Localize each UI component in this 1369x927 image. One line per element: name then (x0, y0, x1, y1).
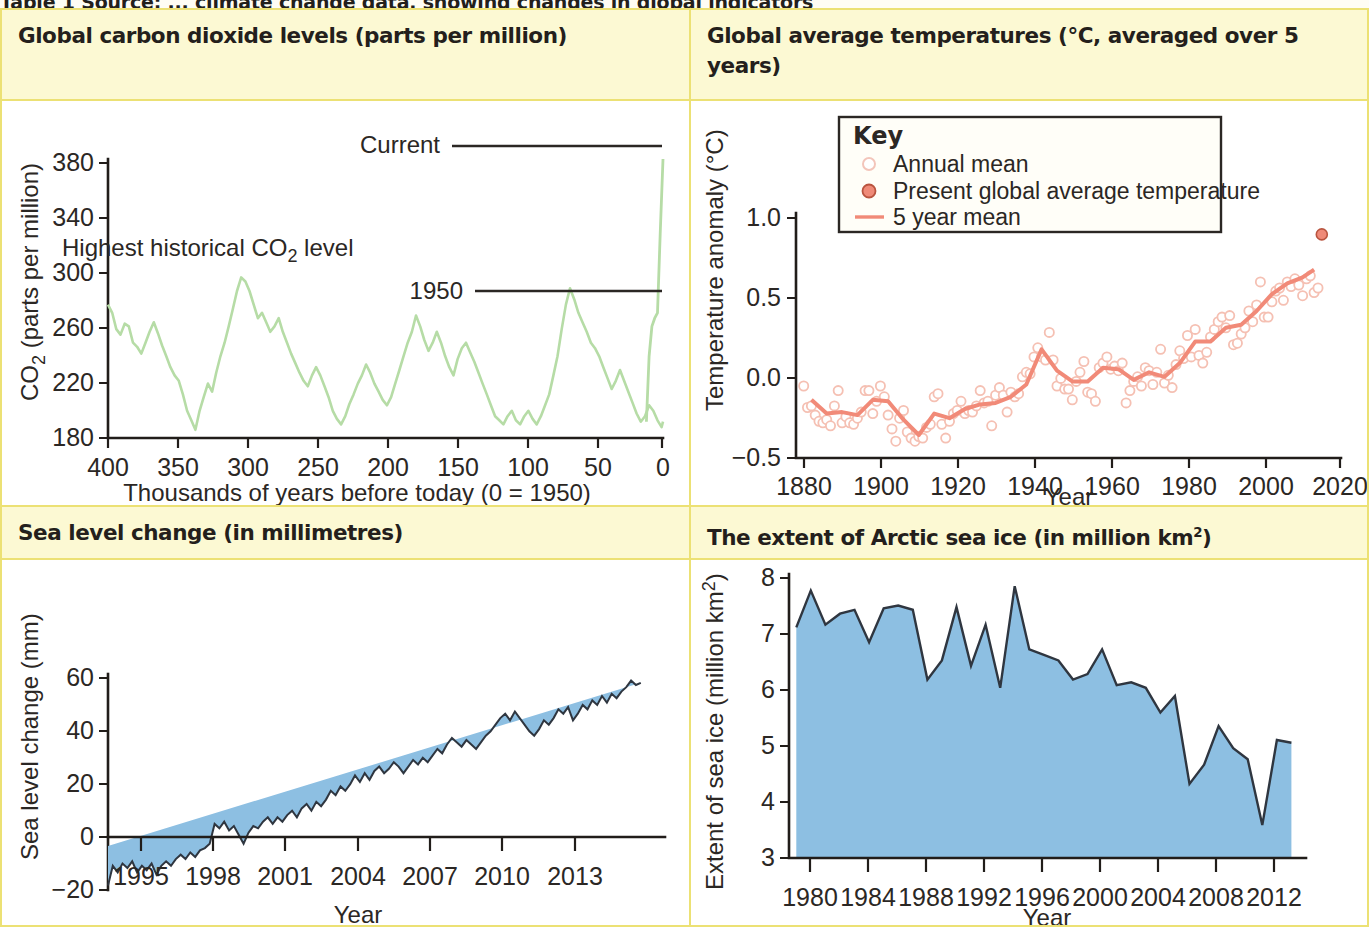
annual-mean-point (876, 381, 885, 390)
legend-label-present: Present global average temperature (893, 178, 1260, 204)
sea-level-x-axis-label: Year (334, 901, 383, 927)
annual-mean-point (1075, 368, 1084, 377)
sea-ice-x-axis-label: Year (1023, 904, 1072, 927)
x-tick-label: 1900 (853, 472, 909, 500)
y-tick-label: 380 (52, 148, 94, 176)
temperature-axes (796, 213, 1341, 458)
annual-mean-point (933, 389, 942, 398)
y-tick-label: 340 (52, 203, 94, 231)
y-tick-label: 220 (52, 368, 94, 396)
panel-title-temperature: Global average temperatures (°C, average… (707, 21, 1351, 81)
annual-mean-point (799, 381, 808, 390)
x-tick-label: 2012 (1246, 883, 1302, 911)
annual-mean-point (1079, 357, 1088, 366)
x-tick-label: 1980 (1161, 472, 1217, 500)
x-tick-label: 2013 (547, 862, 603, 890)
annual-mean-point (864, 386, 873, 395)
y-tick-label: 4 (761, 787, 775, 815)
annual-mean-point (1233, 339, 1242, 348)
x-tick-label: 350 (157, 453, 199, 481)
chart-cell-sea-level: Sea level change (mm) 60 40 20 0 −20 (0, 560, 691, 927)
annual-mean-point (868, 409, 877, 418)
x-tick-label: 2008 (1188, 883, 1244, 911)
annual-mean-point (834, 386, 843, 395)
y-tick-label: 6 (761, 675, 775, 703)
annual-mean-point (891, 437, 900, 446)
temperature-x-axis-label: Year (1045, 483, 1094, 505)
annual-mean-point (887, 424, 896, 433)
x-tick-label: 1980 (782, 883, 838, 911)
y-tick-label: 180 (52, 423, 94, 451)
x-tick-label: 1995 (113, 862, 169, 890)
sea-level-y-axis-label: Sea level change (mm) (16, 613, 43, 860)
annual-mean-point (1202, 348, 1211, 357)
y-tick-label: 3 (761, 843, 775, 871)
climate-indicators-sheet: Table 1 Source: ... climate change data,… (0, 0, 1369, 927)
header-cell-sea-ice: The extent of Arctic sea ice (in million… (691, 505, 1369, 560)
y-tick-label: 0.0 (746, 363, 781, 391)
co2-axes (108, 159, 663, 438)
annual-mean-point (1279, 296, 1288, 305)
co2-annotation-1950: 1950 (410, 277, 662, 304)
legend-title: Key (853, 122, 903, 150)
sea-ice-area-fill (796, 586, 1291, 858)
x-tick-label: 2004 (330, 862, 386, 890)
x-tick-label: 1992 (956, 883, 1012, 911)
title-text-end: ) (1202, 525, 1211, 550)
annual-mean-point (1125, 386, 1134, 395)
annual-mean-point (1118, 359, 1127, 368)
x-tick-label: 2020 (1312, 472, 1367, 500)
y-tick-label: −20 (52, 875, 94, 903)
x-tick-label: 2004 (1130, 883, 1186, 911)
y-tick-label: 20 (66, 769, 94, 797)
y-tick-label: 60 (66, 663, 94, 691)
annual-mean-point (1091, 397, 1100, 406)
co2-x-ticks: 400 350 300 250 200 150 100 50 0 (87, 438, 670, 481)
annual-mean-point (1064, 385, 1073, 394)
annual-mean-point (976, 386, 985, 395)
annual-mean-point (941, 434, 950, 443)
annual-mean-point (826, 421, 835, 430)
temperature-legend: Key Annual mean Present global average t… (839, 117, 1260, 232)
panel-title-co2: Global carbon dioxide levels (parts per … (18, 21, 673, 51)
annual-mean-point (1045, 328, 1054, 337)
sea-level-chart: Sea level change (mm) 60 40 20 0 −20 (2, 560, 691, 927)
annual-mean-point (1313, 283, 1322, 292)
x-tick-label: 50 (584, 453, 612, 481)
annual-mean-point (1225, 311, 1234, 320)
x-tick-label: 400 (87, 453, 129, 481)
y-tick-label: 260 (52, 313, 94, 341)
annotation-label: Current (360, 131, 440, 158)
annual-mean-point (1191, 325, 1200, 334)
annual-mean-point (1137, 381, 1146, 390)
annual-mean-point (1003, 408, 1012, 417)
y-tick-label: 1.0 (746, 203, 781, 231)
sea-ice-chart: Extent of sea ice (million km2) 8 7 6 5 … (691, 560, 1367, 927)
y-tick-label: 5 (761, 731, 775, 759)
x-tick-label: 150 (437, 453, 479, 481)
y-tick-label: 7 (761, 619, 775, 647)
x-tick-label: 2010 (474, 862, 530, 890)
annual-mean-point (1256, 277, 1265, 286)
temperature-annual-mean-points (799, 271, 1323, 446)
annual-mean-point (956, 397, 965, 406)
x-tick-label: 1998 (185, 862, 241, 890)
title-text: The extent of Arctic sea ice (in million… (707, 525, 1193, 550)
sea-level-data-line (108, 681, 641, 886)
annual-mean-point (1298, 291, 1307, 300)
co2-annotation-highest: Highest historical CO2 level (62, 234, 353, 266)
co2-annotation-current: Current (360, 131, 662, 158)
title-superscript: 2 (1193, 525, 1202, 540)
y-tick-label: 0.5 (746, 283, 781, 311)
x-tick-label: 2007 (402, 862, 458, 890)
legend-marker-annual-mean-icon (863, 158, 875, 170)
x-tick-label: 200 (367, 453, 409, 481)
legend-label-annual-mean: Annual mean (893, 151, 1029, 177)
chart-cell-co2: CO2 (parts per million) 380 340 300 260 … (0, 101, 691, 505)
x-tick-label: 0 (656, 453, 670, 481)
annual-mean-point (884, 411, 893, 420)
legend-marker-present-icon (863, 185, 876, 198)
annual-mean-point (1168, 383, 1177, 392)
annual-mean-point (1148, 380, 1157, 389)
chart-cell-temperature: Temperature anomaly (°C) 1.0 0.5 0.0 −0.… (691, 101, 1369, 505)
